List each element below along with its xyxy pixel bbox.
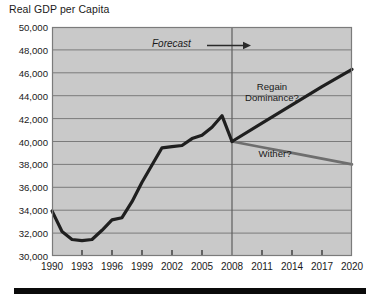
annotation-regain-dominance: Regain Dominance?	[236, 81, 308, 103]
annotation-regain-line1: Regain	[257, 81, 287, 92]
annotation-forecast: Forecast	[152, 38, 191, 50]
chart-figure: Real GDP per Capita 50,000 48,000 46,000…	[0, 0, 373, 297]
bottom-decorative-bar	[14, 288, 366, 294]
historical-gdp-line	[52, 116, 232, 241]
annotation-regain-line2: Dominance?	[245, 92, 299, 103]
annotation-wither: Wither?	[247, 148, 303, 159]
grid-lines	[52, 50, 352, 233]
forecast-arrow-icon	[207, 42, 251, 49]
